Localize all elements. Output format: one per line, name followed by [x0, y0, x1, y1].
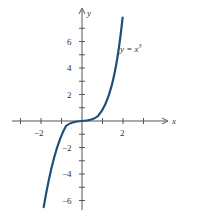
cubic-function-graph: −2 2 6 4 2 −2 −4 −6 x y y = x3: [0, 0, 197, 214]
y-tick-label-2: 2: [67, 90, 72, 100]
y-tick-label-neg6: −6: [62, 196, 72, 206]
cubic-curve: [44, 18, 123, 208]
y-tick-label-6: 6: [67, 37, 72, 47]
y-tick-label-neg2: −2: [62, 143, 72, 153]
y-tick-label-4: 4: [67, 63, 72, 73]
x-tick-label-neg2: −2: [34, 128, 44, 138]
x-tick-label-2: 2: [120, 128, 125, 138]
curve-equation-label: y = x3: [119, 43, 142, 54]
x-axis-label: x: [171, 116, 176, 126]
y-tick-label-neg4: −4: [62, 169, 72, 179]
y-axis-label: y: [86, 8, 91, 18]
